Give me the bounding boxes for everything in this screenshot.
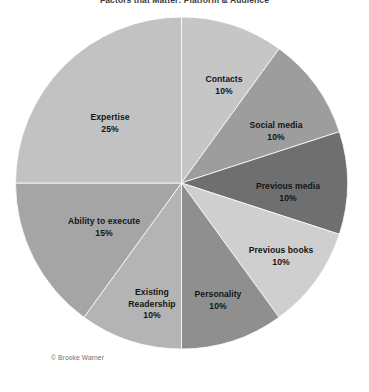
credit-line: © Brooke Warner <box>51 354 104 361</box>
pie-slice <box>16 17 182 183</box>
pie-svg <box>0 0 369 392</box>
pie-slices-group <box>16 17 348 349</box>
pie-chart-figure: Factors that Matter: Platform & Audience… <box>0 0 369 392</box>
pie-chart-area: Contacts10%Social media10%Previous media… <box>0 0 369 392</box>
